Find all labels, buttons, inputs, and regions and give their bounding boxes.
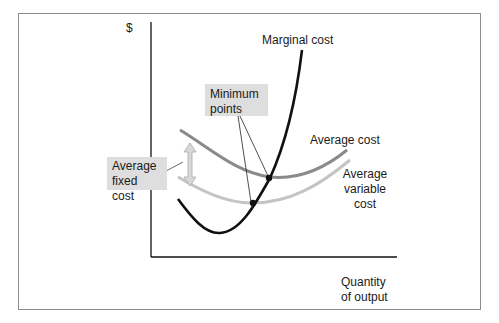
marginal-cost-label: Marginal cost	[262, 33, 333, 48]
x-axis-label-line1: Quantity	[341, 275, 388, 290]
minimum-points-line2: points	[210, 102, 263, 117]
minimum-points-line1: Minimum	[210, 87, 263, 102]
average-variable-cost-label: Average variable cost	[340, 167, 390, 212]
average-cost-label: Average cost	[310, 133, 380, 148]
average-fixed-cost-arrow-icon	[184, 143, 196, 186]
ac-minimum-point	[266, 175, 272, 181]
afc-line2: fixed cost	[112, 174, 162, 204]
avc-label-line2: variable	[340, 182, 390, 197]
leader-line-ac-min	[240, 116, 268, 176]
avc-label-line3: cost	[340, 197, 390, 212]
cost-curves-plot	[0, 0, 499, 323]
avc-label-line1: Average	[340, 167, 390, 182]
average-fixed-cost-callout: Average fixed cost	[107, 157, 167, 190]
minimum-points-callout: Minimum points	[205, 84, 268, 116]
avc-minimum-point	[250, 200, 256, 206]
leader-line-avc-min	[238, 116, 251, 202]
y-axis-label: $	[126, 21, 133, 36]
x-axis-label: Quantity of output	[341, 275, 388, 305]
leader-line-afc	[166, 162, 183, 171]
afc-line1: Average	[112, 159, 162, 174]
x-axis-label-line2: of output	[341, 290, 388, 305]
